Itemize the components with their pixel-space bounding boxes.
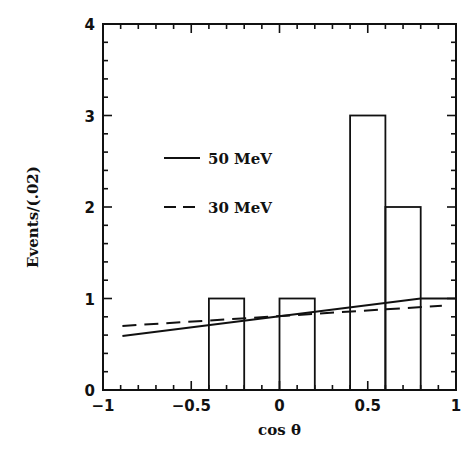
x-tick-label: 0 [274, 397, 284, 415]
x-tick-label: −0.5 [172, 397, 211, 415]
y-tick-label: 3 [85, 108, 95, 126]
legend: 50 MeV 30 MeV [164, 150, 272, 217]
x-tick-label: 0.5 [354, 397, 381, 415]
y-tick-label: 2 [85, 199, 95, 217]
x-axis-label: cos θ [258, 421, 301, 439]
y-tick-labels: 01234 [85, 16, 95, 400]
series-line-50-mev [122, 299, 456, 337]
series-lines [122, 299, 456, 337]
legend-label-30mev: 30 MeV [208, 199, 272, 217]
histogram-bin [350, 116, 385, 391]
y-tick-label: 4 [85, 16, 95, 34]
series-line-30-mev [122, 306, 441, 326]
y-tick-label: 1 [85, 291, 95, 309]
x-tick-label: 1 [451, 397, 461, 415]
y-tick-label: 0 [85, 382, 95, 400]
chart: −1−0.500.51 01234 50 MeV 30 MeV cos θ Ev… [0, 0, 475, 450]
legend-label-50mev: 50 MeV [208, 150, 272, 168]
y-axis-label: Events/(.02) [24, 166, 42, 268]
x-tick-labels: −1−0.500.51 [91, 397, 461, 415]
histogram-bin [209, 299, 244, 391]
